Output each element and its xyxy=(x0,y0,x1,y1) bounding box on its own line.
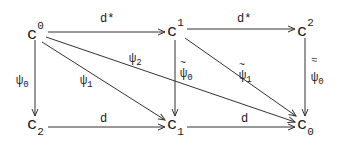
node-c-sup-2: c2 xyxy=(297,21,314,40)
commutative-diagram: c0 c1 c2 c2 c1 c0 d* d* d d ψ0 ~ψ0 ≈ψ0 ψ… xyxy=(0,0,341,145)
double-tilde-accent: ≈ xyxy=(311,58,317,64)
label-psi1: ψ1 xyxy=(80,75,93,90)
node-c-sub-2: c2 xyxy=(27,116,44,136)
label-d-star-right: d* xyxy=(237,13,251,25)
tilde-accent: ~ xyxy=(180,59,186,69)
label-d-left: d xyxy=(100,113,107,125)
label-psi0-tilde: ~ψ0 xyxy=(180,68,193,83)
label-psi2: ψ2 xyxy=(129,53,142,68)
node-c-sub-0: c0 xyxy=(297,116,314,136)
node-c-sub-1: c1 xyxy=(167,116,184,136)
label-d-star-left: d* xyxy=(100,13,114,25)
label-psi1-tilde: ~ψ1 xyxy=(239,70,252,85)
node-c-sup-0: c0 xyxy=(27,24,44,43)
arrow-diag-psi1 xyxy=(42,42,165,120)
node-c-sup-1: c1 xyxy=(167,21,184,40)
label-psi0-double-tilde: ≈ψ0 xyxy=(311,72,324,87)
label-psi0-left: ψ0 xyxy=(16,75,29,90)
tilde-accent: ~ xyxy=(239,61,245,71)
label-d-right: d xyxy=(241,113,248,125)
